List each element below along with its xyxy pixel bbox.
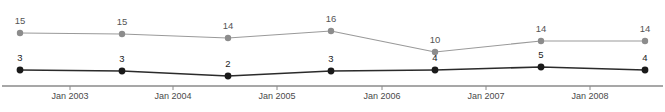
chart-canvas: Jan 2003Jan 2004Jan 2005Jan 2006Jan 2007… bbox=[0, 0, 665, 112]
data-point-lower-series[interactable] bbox=[119, 68, 126, 75]
data-label-upper-series: 15 bbox=[117, 16, 128, 27]
data-point-lower-series[interactable] bbox=[432, 67, 439, 74]
data-label-upper-series: 14 bbox=[640, 23, 651, 34]
x-axis-tick-label: Jan 2004 bbox=[154, 91, 191, 101]
x-axis-tick-label: Jan 2006 bbox=[363, 91, 400, 101]
data-label-upper-series: 10 bbox=[430, 34, 441, 45]
data-point-lower-series[interactable] bbox=[17, 67, 24, 74]
x-axis-tick-label: Jan 2005 bbox=[258, 91, 295, 101]
data-point-upper-series[interactable] bbox=[538, 38, 544, 44]
series-line-upper-series bbox=[20, 31, 645, 52]
data-label-lower-series: 3 bbox=[17, 52, 22, 63]
data-point-upper-series[interactable] bbox=[642, 38, 648, 44]
data-point-upper-series[interactable] bbox=[225, 35, 231, 41]
line-chart: Jan 2003Jan 2004Jan 2005Jan 2006Jan 2007… bbox=[0, 0, 665, 112]
data-label-lower-series: 5 bbox=[538, 49, 543, 60]
data-label-upper-series: 16 bbox=[326, 13, 337, 24]
x-axis: Jan 2003Jan 2004Jan 2005Jan 2006Jan 2007… bbox=[2, 86, 663, 101]
data-label-lower-series: 3 bbox=[119, 53, 124, 64]
x-axis-tick-label: Jan 2008 bbox=[571, 91, 608, 101]
data-point-upper-series[interactable] bbox=[119, 31, 125, 37]
data-point-lower-series[interactable] bbox=[328, 68, 335, 75]
data-point-upper-series[interactable] bbox=[328, 28, 334, 34]
x-axis-tick-label: Jan 2007 bbox=[467, 91, 504, 101]
data-label-lower-series: 4 bbox=[642, 52, 647, 63]
x-axis-tick-label: Jan 2003 bbox=[51, 91, 88, 101]
data-point-lower-series[interactable] bbox=[538, 64, 545, 71]
data-point-upper-series[interactable] bbox=[17, 30, 23, 36]
data-label-lower-series: 4 bbox=[432, 52, 437, 63]
data-label-lower-series: 3 bbox=[328, 53, 333, 64]
data-label-lower-series: 2 bbox=[225, 58, 230, 69]
data-label-upper-series: 14 bbox=[536, 23, 547, 34]
data-label-upper-series: 15 bbox=[15, 15, 26, 26]
data-label-upper-series: 14 bbox=[223, 20, 234, 31]
data-point-lower-series[interactable] bbox=[642, 67, 649, 74]
data-point-lower-series[interactable] bbox=[225, 73, 232, 80]
